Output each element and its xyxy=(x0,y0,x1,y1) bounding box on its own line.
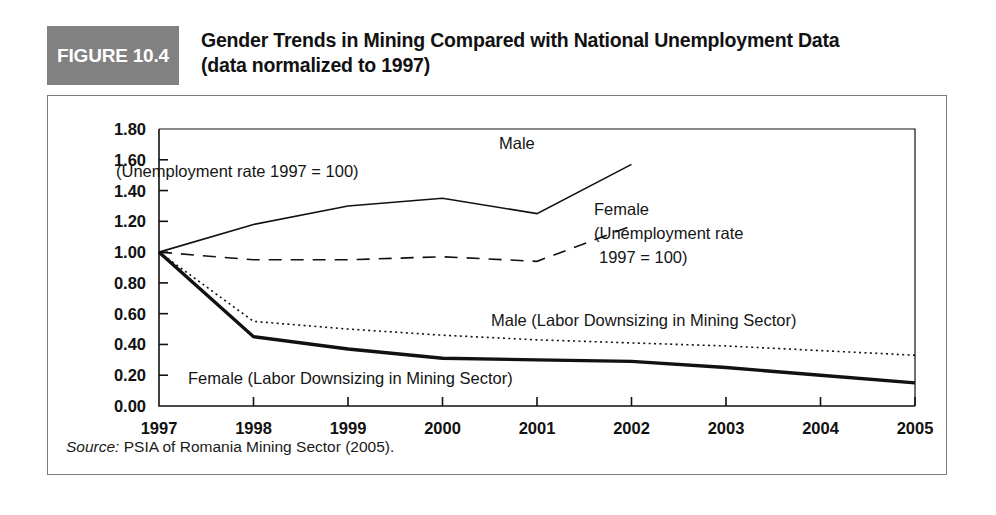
x-axis-tick-label: 1997 xyxy=(141,419,178,437)
annotation-female-unemployment-l1: Female xyxy=(594,200,649,218)
y-axis-tick-label: 0.40 xyxy=(114,335,146,353)
y-axis-tick-label: 1.40 xyxy=(114,182,146,200)
y-axis-tick-label: 0.00 xyxy=(114,397,146,415)
figure-title: Gender Trends in Mining Compared with Na… xyxy=(201,26,839,78)
annotation-female-downsizing: Female (Labor Downsizing in Mining Secto… xyxy=(188,369,513,387)
figure-header: FIGURE 10.4 Gender Trends in Mining Comp… xyxy=(47,26,950,85)
figure-title-line-2: (data normalized to 1997) xyxy=(201,53,839,78)
annotation-male-unemployment-l1: Male xyxy=(499,134,535,152)
annotation-male-unemployment-l2: (Unemployment rate 1997 = 100) xyxy=(116,162,359,180)
chart-area: 0.000.200.400.600.801.001.201.401.601.80… xyxy=(48,96,948,476)
x-axis-tick-label: 2005 xyxy=(897,419,934,437)
y-axis-tick-label: 0.80 xyxy=(114,274,146,292)
x-axis-tick-label: 2001 xyxy=(519,419,556,437)
x-axis-tick-label: 2004 xyxy=(802,419,840,437)
y-axis-tick-label: 1.80 xyxy=(114,120,146,138)
line-chart: 0.000.200.400.600.801.001.201.401.601.80… xyxy=(48,96,948,476)
x-axis-tick-label: 2003 xyxy=(708,419,745,437)
source-label: Source: xyxy=(66,438,119,455)
figure-panel: 0.000.200.400.600.801.001.201.401.601.80… xyxy=(47,95,947,475)
annotation-female-unemployment-l3: 1997 = 100) xyxy=(599,248,688,266)
y-axis-tick-label: 0.20 xyxy=(114,366,146,384)
annotation-male-downsizing: Male (Labor Downsizing in Mining Sector) xyxy=(491,311,796,329)
x-axis-tick-label: 2002 xyxy=(613,419,650,437)
x-axis-tick-label: 2000 xyxy=(424,419,461,437)
y-axis-tick-label: 1.00 xyxy=(114,243,146,261)
y-axis-tick-label: 0.60 xyxy=(114,305,146,323)
source-value: PSIA of Romania Mining Sector (2005). xyxy=(119,438,394,455)
figure-title-line-1: Gender Trends in Mining Compared with Na… xyxy=(201,29,839,51)
x-axis-tick-label: 1999 xyxy=(330,419,367,437)
x-axis-tick-label: 1998 xyxy=(235,419,272,437)
y-axis-tick-label: 1.20 xyxy=(114,212,146,230)
figure-number-badge: FIGURE 10.4 xyxy=(47,26,179,85)
source-note: Source: PSIA of Romania Mining Sector (2… xyxy=(66,438,394,456)
annotation-female-unemployment-l2: (Unemployment rate xyxy=(594,224,743,242)
